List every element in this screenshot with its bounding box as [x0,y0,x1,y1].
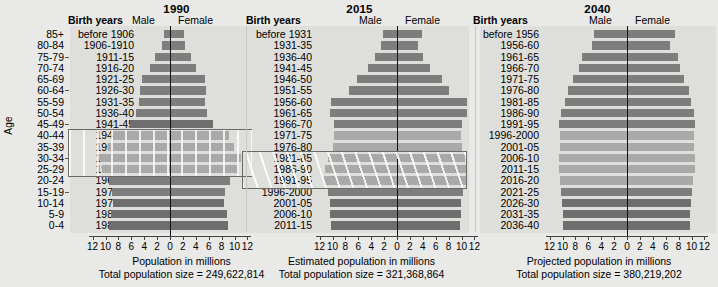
panel-separator [475,26,476,232]
bar-female [170,143,234,151]
x-axis-tick [423,236,424,240]
x-axis-tick [118,236,119,240]
bar-female [397,86,449,94]
bar-female [627,120,695,128]
bar-female [397,64,430,72]
x-axis-tick [345,236,346,240]
bar-male [560,143,627,151]
bar-female [627,199,691,207]
bar-male [559,165,627,173]
x-axis-tick [106,236,107,240]
x-axis-tick [397,236,398,240]
bar-female [627,86,689,94]
x-axis-tick [449,236,450,240]
bar-female [397,120,462,128]
bar-female [170,131,229,139]
bar-male [357,75,397,83]
age-axis-title: Age [3,106,14,146]
bar-female [627,64,680,72]
birth-years-label: 1956-60 [246,97,312,108]
bar-male [563,221,627,229]
bar-male [109,176,170,184]
x-axis-tick [196,236,197,240]
bar-male [328,188,397,196]
x-axis-title: Estimated population in millions [252,255,471,267]
bar-female [397,143,462,151]
x-axis-tick [692,236,693,240]
bar-female [397,53,423,61]
x-axis-tick [235,236,236,240]
header-male: Male [359,14,382,26]
birth-years-label: 1961-65 [474,52,539,63]
zero-axis-line [627,26,628,237]
bar-female [627,165,695,173]
bar-male [155,53,170,61]
bar-female [627,131,694,139]
bar-male [334,131,397,139]
x-axis-tick [131,236,132,240]
bar-female [170,64,196,72]
bar-male [334,120,397,128]
x-axis-tick [209,236,210,240]
header-female: Female [405,14,440,26]
bar-female [170,188,225,196]
header-female: Female [635,14,670,26]
bar-male [330,199,397,207]
bar-male [368,64,397,72]
bar-male [563,210,628,218]
birth-years-label: 1996-2000 [474,130,539,141]
x-axis-tick [333,236,334,240]
bar-female [627,98,691,106]
header-birth-years: Birth years [473,14,528,26]
birth-years-label: 1931-35 [64,97,134,108]
bar-male [111,210,170,218]
bar-male [109,221,170,229]
zero-axis-line [397,26,398,237]
bar-female [397,41,418,49]
bar-male [328,154,397,162]
bar-female [627,41,670,49]
bar-male [150,64,170,72]
pyramid-panel-2040: 2040Birth yearsMaleFemalebefore 19561956… [477,0,718,287]
x-axis-tick [157,236,158,240]
bar-male [594,30,627,38]
bar-female [170,120,213,128]
bar-male [162,41,170,49]
bar-male [582,53,627,61]
pyramid-panel-2015: 2015Birth yearsMaleFemalebefore 19311931… [248,0,471,287]
bar-female [627,154,695,162]
bar-female [627,188,692,196]
bar-male [139,98,170,106]
bar-male [330,109,397,117]
birth-years-label: 1976-80 [246,142,312,153]
bar-male [565,98,627,106]
x-axis-tick [601,236,602,240]
bar-male [561,188,627,196]
x-axis-title: Projected population in millions [480,255,718,267]
bar-female [170,98,205,106]
bar-female [397,131,461,139]
x-axis-tick [358,236,359,240]
birth-years-label: 1931-35 [246,40,312,51]
panel-separator [246,26,247,232]
bar-female [397,176,467,184]
population-pyramid-figure: Age 85+80-8475-7970-7465-6960-6455-5950-… [0,0,718,287]
bar-female [170,86,206,94]
total-population-label: Total population size = 380,219,202 [480,268,718,280]
x-axis-tick [222,236,223,240]
bar-female [170,109,207,117]
bar-female [397,30,422,38]
x-axis-tick [588,236,589,240]
x-axis-tick [144,236,145,240]
bar-female [397,221,460,229]
bar-male [375,53,397,61]
bar-male [112,188,170,196]
bar-female [627,53,678,61]
birth-years-label: 2011-15 [246,220,312,231]
x-axis-tick [563,236,564,240]
header-male: Male [132,14,155,26]
bar-male [573,75,627,83]
birth-years-label: 1971-75 [246,130,312,141]
birth-years-label: 1956-60 [474,40,539,51]
bar-female [397,165,467,173]
